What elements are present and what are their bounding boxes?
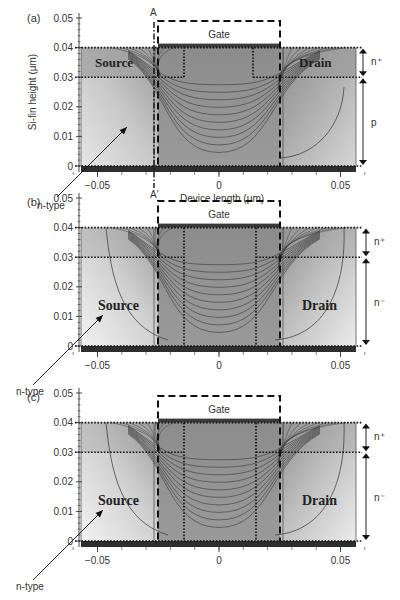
gate-label: Gate xyxy=(208,404,230,415)
y-tick-label: 0.02 xyxy=(54,101,74,112)
panel-label: (b) xyxy=(27,196,40,208)
y-tick-label: 0.05 xyxy=(54,13,74,24)
y-tick-label: 0.01 xyxy=(54,506,74,517)
panel-c: (c)Gate00.010.020.030.040.05−0.0500.05So… xyxy=(16,388,385,593)
lower-dimension-arrowhead-up-icon xyxy=(362,258,370,263)
finfet-figure: (a)GateAA′00.010.020.030.040.05Si-fin he… xyxy=(0,0,400,600)
y-tick-label: 0 xyxy=(67,161,73,172)
panel-label: (c) xyxy=(27,391,40,403)
substrate-bar xyxy=(81,541,356,547)
gate-label: Gate xyxy=(208,29,230,40)
y-tick-label: 0.04 xyxy=(54,42,74,53)
panel-label: (a) xyxy=(27,12,40,24)
x-tick-label: 0 xyxy=(216,555,222,566)
y-tick-label: 0.01 xyxy=(54,311,74,322)
panel-b: (b)Gate00.010.020.030.040.05−0.0500.05So… xyxy=(16,193,385,398)
section-label-bottom: A′ xyxy=(150,189,159,200)
ntype-label: n-type xyxy=(16,581,44,592)
x-tick-label: 0.05 xyxy=(331,180,351,191)
lower-doping-label: n⁻ xyxy=(374,492,385,503)
source-label: Source xyxy=(98,298,139,313)
lower-dimension-arrowhead-up-icon xyxy=(362,453,370,458)
x-tick-label: 0.05 xyxy=(331,555,351,566)
lower-doping-label: n⁻ xyxy=(374,297,385,308)
gate-label: Gate xyxy=(208,209,230,220)
y-tick-label: 0.03 xyxy=(54,252,74,263)
lower-dimension-arrowhead-down-icon xyxy=(362,340,370,345)
nplus-label: n⁺ xyxy=(371,56,382,67)
y-tick-label: 0.05 xyxy=(54,388,74,399)
nplus-label: n⁺ xyxy=(374,236,385,247)
x-tick-label: 0.05 xyxy=(331,360,351,371)
y-axis-title: Si-fin height (μm) xyxy=(27,54,38,130)
y-tick-label: 0.04 xyxy=(54,417,74,428)
lower-dimension-arrowhead-up-icon xyxy=(359,78,367,83)
lower-dimension-arrowhead-down-icon xyxy=(362,535,370,540)
x-tick-label: −0.05 xyxy=(85,555,111,566)
lower-doping-label: p xyxy=(371,117,377,128)
y-tick-label: 0.02 xyxy=(54,476,74,487)
source-label: Source xyxy=(95,55,133,70)
nplus-dimension-arrowhead-up-icon xyxy=(362,424,370,429)
panel-a: (a)GateAA′00.010.020.030.040.05Si-fin he… xyxy=(27,7,382,211)
section-label-top: A xyxy=(150,7,157,18)
x-tick-label: −0.05 xyxy=(85,180,111,191)
drain-label: Drain xyxy=(302,493,337,508)
x-tick-label: 0 xyxy=(216,180,222,191)
nplus-dimension-arrowhead-down-icon xyxy=(362,251,370,256)
x-tick-label: 0 xyxy=(216,360,222,371)
nplus-dimension-arrowhead-up-icon xyxy=(362,229,370,234)
substrate-bar xyxy=(81,346,356,352)
x-tick-label: −0.05 xyxy=(85,360,111,371)
drain-label: Drain xyxy=(302,298,337,313)
lower-dimension-arrowhead-down-icon xyxy=(359,160,367,165)
y-tick-label: 0.04 xyxy=(54,222,74,233)
drain-label: Drain xyxy=(299,55,332,70)
source-label: Source xyxy=(98,493,139,508)
nplus-dimension-arrowhead-down-icon xyxy=(359,71,367,76)
y-tick-label: 0.01 xyxy=(54,131,74,142)
substrate-bar xyxy=(81,166,356,172)
y-tick-label: 0.03 xyxy=(54,72,74,83)
nplus-dimension-arrowhead-down-icon xyxy=(362,446,370,451)
nplus-dimension-arrowhead-up-icon xyxy=(359,49,367,54)
x-axis-title: Device length (μm) xyxy=(180,193,264,204)
y-tick-label: 0.03 xyxy=(54,447,74,458)
y-tick-label: 0.02 xyxy=(54,281,74,292)
y-tick-label: 0.05 xyxy=(54,193,74,204)
nplus-label: n⁺ xyxy=(374,431,385,442)
